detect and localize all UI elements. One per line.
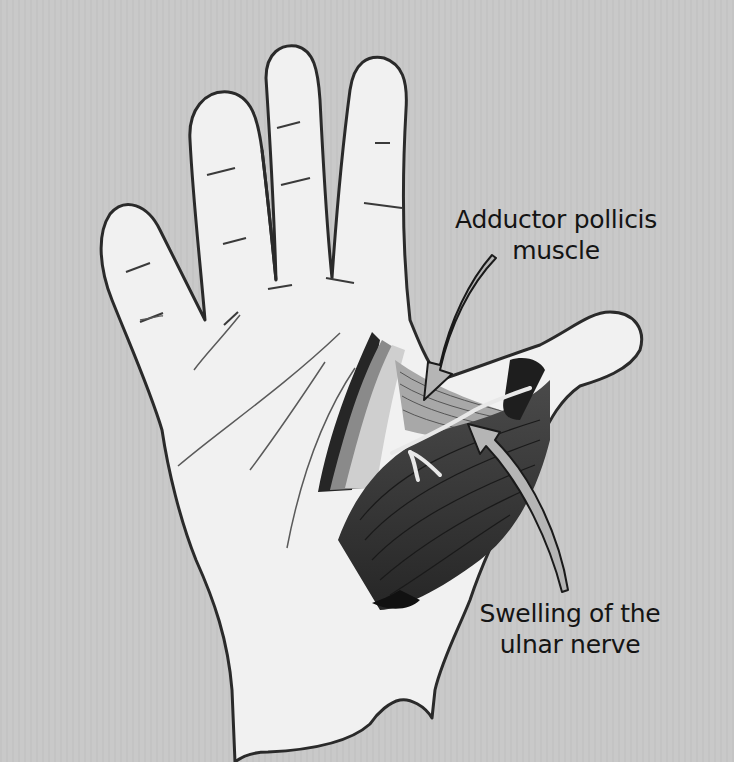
label-ulnar-line1: Swelling of the bbox=[452, 598, 688, 629]
label-adductor-pollicis: Adductor pollicis muscle bbox=[432, 204, 680, 266]
bottom-margin bbox=[0, 762, 734, 780]
diagram-canvas: Adductor pollicis muscle Swelling of the… bbox=[0, 0, 734, 762]
label-adductor-line1: Adductor pollicis bbox=[432, 204, 680, 235]
label-ulnar-nerve: Swelling of the ulnar nerve bbox=[452, 598, 688, 660]
label-ulnar-line2: ulnar nerve bbox=[452, 629, 688, 660]
label-adductor-line2: muscle bbox=[432, 235, 680, 266]
